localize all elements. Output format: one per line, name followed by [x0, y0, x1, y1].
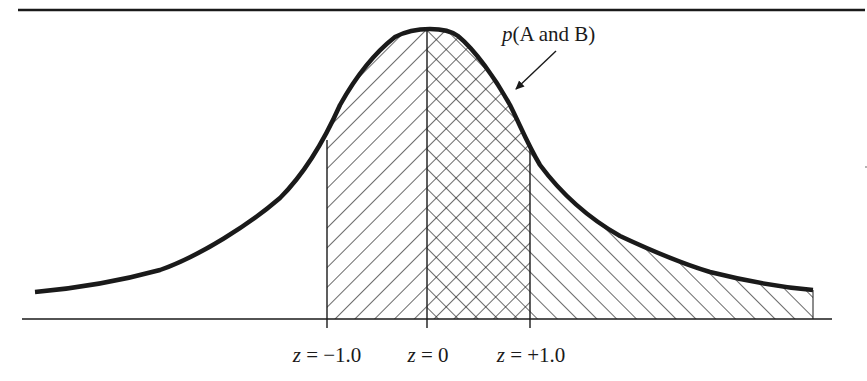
annotation-prefix: p	[500, 22, 513, 46]
annotation-label: p(A and B)	[500, 22, 595, 46]
diagram-canvas: p(A and B) z = −1.0 z = 0 z = +1.0	[0, 0, 867, 381]
pointer-arrow-icon	[516, 51, 556, 89]
annotation-text: (A and B)	[513, 22, 596, 46]
axis-label-z-minus-1: z = −1.0	[292, 343, 362, 367]
axis-label-z-plus-1: z = +1.0	[496, 343, 566, 367]
axis-label-z-0: z = 0	[406, 343, 448, 367]
